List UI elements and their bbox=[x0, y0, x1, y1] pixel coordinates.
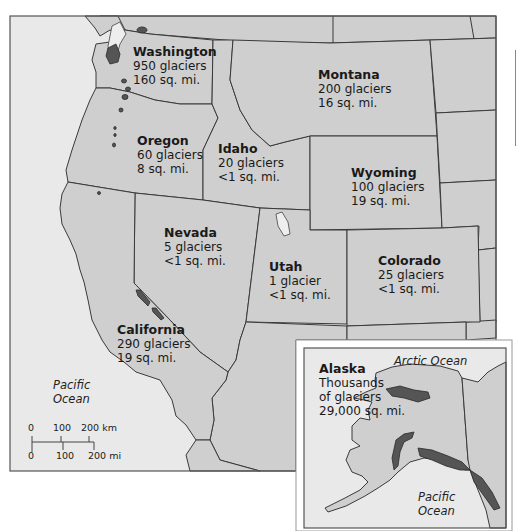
alaska-line1: Thousands bbox=[319, 376, 405, 390]
state-name: Nevada bbox=[164, 226, 226, 240]
glacier-area: 16 sq. mi. bbox=[318, 96, 392, 110]
glacier-adams bbox=[122, 95, 128, 100]
ocean-name-line1: Pacific bbox=[418, 490, 455, 504]
scale-mi-200: 200 mi bbox=[88, 450, 121, 461]
state-kansas bbox=[478, 248, 496, 322]
glacier-area: 160 sq. mi. bbox=[133, 73, 217, 87]
glacier-area: <1 sq. mi. bbox=[218, 170, 284, 184]
state-name: Montana bbox=[318, 68, 392, 82]
glacier-area: 29,000 sq. mi. bbox=[319, 404, 405, 418]
label-colorado: Colorado 25 glaciers <1 sq. mi. bbox=[378, 254, 444, 296]
glacier-area: 8 sq. mi. bbox=[137, 162, 203, 176]
state-oklahoma bbox=[466, 320, 496, 340]
state-name: Alaska bbox=[319, 362, 405, 376]
label-montana: Montana 200 glaciers 16 sq. mi. bbox=[318, 68, 392, 110]
state-name: Idaho bbox=[218, 142, 284, 156]
glacier-area: <1 sq. mi. bbox=[164, 254, 226, 268]
scale-km-0: 0 bbox=[28, 422, 34, 433]
glacier-count: 100 glaciers bbox=[351, 180, 425, 194]
glacier-shasta bbox=[98, 192, 101, 195]
label-alaska: Alaska Thousands of glaciers 29,000 sq. … bbox=[319, 362, 405, 418]
glacier-count: 200 glaciers bbox=[318, 82, 392, 96]
label-arctic-ocean: Arctic Ocean bbox=[394, 354, 467, 368]
glacier-rainier bbox=[122, 79, 127, 83]
glacier-st-helens bbox=[126, 87, 131, 91]
glacier-count: 290 glaciers bbox=[117, 337, 191, 351]
state-name: California bbox=[117, 323, 191, 337]
label-nevada: Nevada 5 glaciers <1 sq. mi. bbox=[164, 226, 226, 268]
glacier-count: 950 glaciers bbox=[133, 59, 217, 73]
ocean-name-line2: Ocean bbox=[418, 504, 455, 518]
glacier-hood bbox=[119, 108, 123, 112]
page-side-rule bbox=[515, 50, 516, 146]
scale-km-100: 100 bbox=[53, 422, 71, 433]
glacier-north-cascades bbox=[137, 27, 147, 33]
glacier-count: 1 glacier bbox=[269, 274, 331, 288]
label-pacific-ocean-inset: Pacific Ocean bbox=[418, 490, 455, 518]
glacier-count: 25 glaciers bbox=[378, 268, 444, 282]
scale-mi-0: 0 bbox=[28, 450, 34, 461]
glacier-count: 60 glaciers bbox=[137, 148, 203, 162]
state-north-dakota bbox=[430, 38, 496, 113]
state-name: Oregon bbox=[137, 134, 203, 148]
state-name: Wyoming bbox=[351, 166, 425, 180]
label-washington: Washington 950 glaciers 160 sq. mi. bbox=[133, 45, 217, 87]
label-wyoming: Wyoming 100 glaciers 19 sq. mi. bbox=[351, 166, 425, 208]
glacier-oregon-1 bbox=[114, 127, 116, 130]
glacier-area: 19 sq. mi. bbox=[351, 194, 425, 208]
glacier-area: <1 sq. mi. bbox=[269, 288, 331, 302]
label-oregon: Oregon 60 glaciers 8 sq. mi. bbox=[137, 134, 203, 176]
glacier-count: 20 glaciers bbox=[218, 156, 284, 170]
ocean-name-line1: Pacific bbox=[53, 378, 90, 392]
state-name: Washington bbox=[133, 45, 217, 59]
label-idaho: Idaho 20 glaciers <1 sq. mi. bbox=[218, 142, 284, 184]
scale-mi-100: 100 bbox=[56, 450, 74, 461]
glacier-oregon-2 bbox=[114, 134, 116, 137]
glacier-area: <1 sq. mi. bbox=[378, 282, 444, 296]
glacier-area: 19 sq. mi. bbox=[117, 351, 191, 365]
scale-km-200: 200 km bbox=[81, 422, 117, 433]
label-pacific-ocean-main: Pacific Ocean bbox=[53, 378, 90, 406]
label-california: California 290 glaciers 19 sq. mi. bbox=[117, 323, 191, 365]
ocean-name-line2: Ocean bbox=[53, 392, 90, 406]
state-south-dakota bbox=[436, 110, 496, 183]
alaska-line2: of glaciers bbox=[319, 390, 405, 404]
label-utah: Utah 1 glacier <1 sq. mi. bbox=[269, 260, 331, 302]
glacier-oregon-3 bbox=[113, 143, 116, 147]
state-name: Colorado bbox=[378, 254, 444, 268]
state-name: Utah bbox=[269, 260, 331, 274]
glacier-count: 5 glaciers bbox=[164, 240, 226, 254]
